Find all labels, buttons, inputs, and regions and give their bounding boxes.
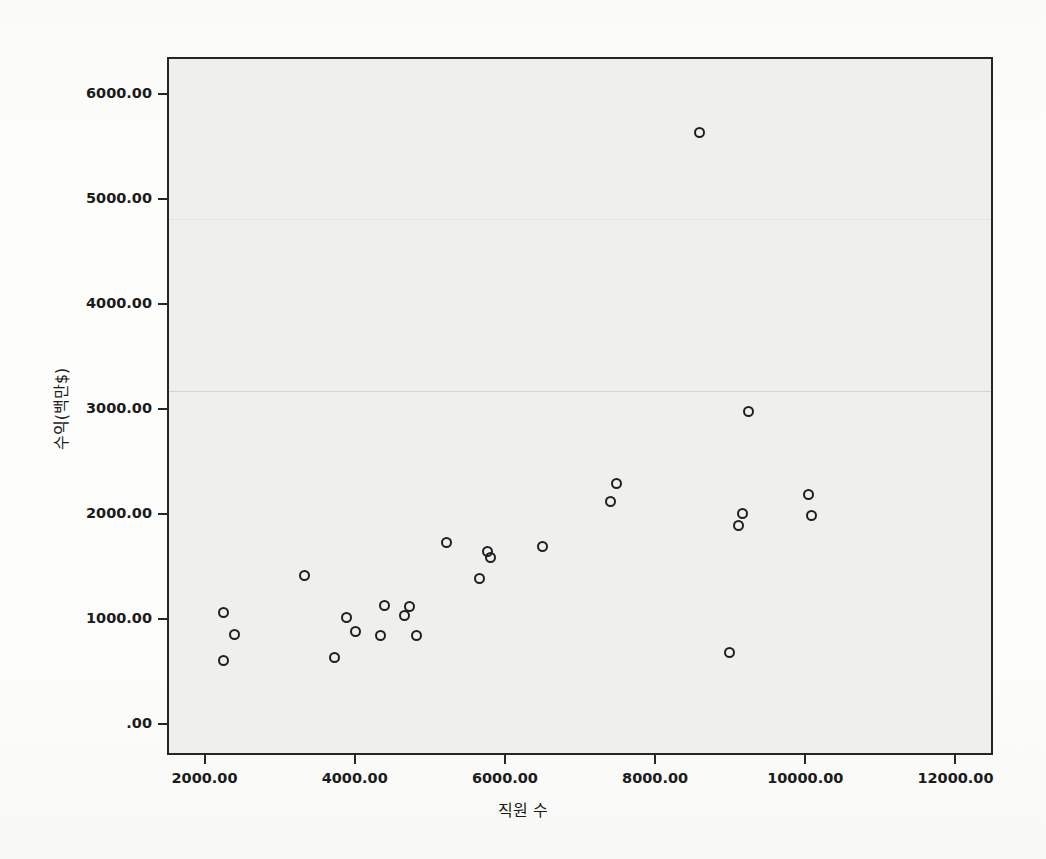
- x-tick-label: 10000.00: [745, 770, 865, 786]
- y-tick-label: 3000.00: [0, 400, 152, 416]
- data-point: [737, 508, 748, 519]
- data-point: [218, 607, 229, 618]
- data-point: [803, 489, 814, 500]
- data-point: [299, 570, 310, 581]
- y-tick-mark: [158, 303, 167, 305]
- y-axis-title-wrap: 수익(백만$): [47, 324, 73, 494]
- y-tick-label: 6000.00: [0, 85, 152, 101]
- y-tick-label: 1000.00: [0, 610, 152, 626]
- x-tick-mark: [204, 755, 206, 764]
- data-point: [743, 406, 754, 417]
- x-tick-label: 12000.00: [895, 770, 1015, 786]
- scan-crease: [169, 219, 991, 220]
- x-tick-label: 8000.00: [595, 770, 715, 786]
- y-tick-label: 4000.00: [0, 295, 152, 311]
- data-point: [605, 496, 616, 507]
- data-point: [441, 537, 452, 548]
- y-tick-mark: [158, 618, 167, 620]
- y-tick-mark: [158, 723, 167, 725]
- y-tick-mark: [158, 513, 167, 515]
- data-point: [341, 612, 352, 623]
- data-point: [375, 630, 386, 641]
- y-axis-title: 수익(백만$): [48, 368, 72, 451]
- data-point: [611, 478, 622, 489]
- data-point: [404, 601, 415, 612]
- data-point: [218, 655, 229, 666]
- x-axis-title: 직원 수: [0, 797, 1046, 821]
- data-point: [806, 510, 817, 521]
- scatter-plot-page: 연구에서는 다음과 같은 자료를 사용하였다 표본 기업수 자료 수집 기간 분…: [0, 0, 1046, 859]
- data-point: [537, 541, 548, 552]
- data-point: [229, 629, 240, 640]
- y-tick-mark: [158, 198, 167, 200]
- x-tick-label: 6000.00: [445, 770, 565, 786]
- y-tick-label: 5000.00: [0, 190, 152, 206]
- y-tick-label: .00: [0, 715, 152, 731]
- data-point: [724, 647, 735, 658]
- x-tick-mark: [954, 755, 956, 764]
- data-point: [411, 630, 422, 641]
- x-tick-mark: [654, 755, 656, 764]
- plot-surface: [169, 59, 991, 753]
- data-point: [474, 573, 485, 584]
- data-point: [733, 520, 744, 531]
- y-tick-mark: [158, 408, 167, 410]
- plot-area: [167, 57, 993, 755]
- x-tick-mark: [354, 755, 356, 764]
- x-tick-mark: [804, 755, 806, 764]
- data-point: [379, 600, 390, 611]
- x-tick-mark: [504, 755, 506, 764]
- y-tick-label: 2000.00: [0, 505, 152, 521]
- data-point: [485, 552, 496, 563]
- data-point: [350, 626, 361, 637]
- x-tick-label: 4000.00: [295, 770, 415, 786]
- y-tick-mark: [158, 93, 167, 95]
- data-point: [329, 652, 340, 663]
- scan-crease: [169, 391, 991, 392]
- data-point: [694, 127, 705, 138]
- x-tick-label: 2000.00: [145, 770, 265, 786]
